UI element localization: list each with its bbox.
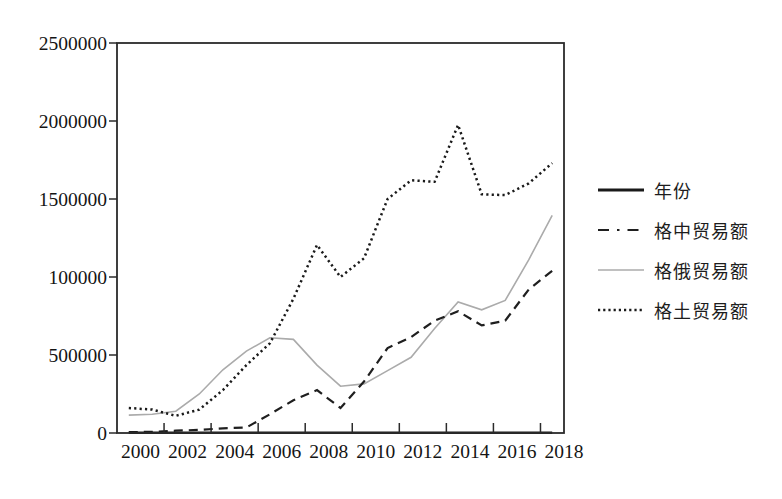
plot-border: [117, 43, 564, 433]
x-tick-label: 2000: [121, 441, 160, 462]
x-tick-label: 2012: [403, 441, 442, 462]
x-tick-label: 2004: [215, 441, 254, 462]
series-layer: [129, 125, 552, 433]
x-tick-label: 2014: [450, 441, 489, 462]
series-line-georgia-china: [129, 271, 552, 432]
y-tick-label: 1500000: [39, 189, 107, 210]
axes-layer: [109, 43, 564, 433]
legend-item-georgia-turkey: 格土贸易额: [597, 290, 782, 330]
legend-line-sample-dashed-icon: [597, 223, 645, 237]
legend-item-georgia-russia: 格俄贸易额: [597, 250, 782, 290]
y-tick-label: 100000: [49, 267, 108, 288]
x-tick-label: 2008: [309, 441, 348, 462]
legend-label: 格土贸易额: [654, 297, 749, 323]
legend-item-georgia-china: 格中贸易额: [597, 210, 782, 250]
legend: 年份格中贸易额格俄贸易额格土贸易额: [597, 170, 782, 330]
y-tick-label: 2500000: [39, 33, 107, 54]
x-tick-label: 2018: [545, 441, 584, 462]
legend-line-sample-solid-icon: [597, 183, 645, 197]
y-tick-label: 0: [97, 423, 107, 444]
series-line-georgia-russia: [129, 215, 552, 415]
y-tick-label: 500000: [49, 345, 108, 366]
legend-label: 年份: [654, 177, 692, 203]
legend-label: 格俄贸易额: [654, 257, 749, 283]
x-tick-label: 2006: [262, 441, 301, 462]
x-tick-label: 2010: [356, 441, 395, 462]
legend-item-year: 年份: [597, 170, 782, 210]
chart-figure: 0500000100000150000020000002500000200020…: [0, 0, 782, 499]
y-tick-label: 2000000: [39, 111, 107, 132]
legend-label: 格中贸易额: [654, 217, 749, 243]
axis-labels-layer: 0500000100000150000020000002500000200020…: [39, 33, 584, 463]
legend-line-sample-solid-icon: [597, 263, 645, 277]
x-tick-label: 2002: [168, 441, 207, 462]
series-line-georgia-turkey: [129, 125, 552, 416]
x-tick-label: 2016: [497, 441, 536, 462]
page: 0500000100000150000020000002500000200020…: [0, 0, 782, 499]
legend-line-sample-dotted-icon: [597, 303, 645, 317]
